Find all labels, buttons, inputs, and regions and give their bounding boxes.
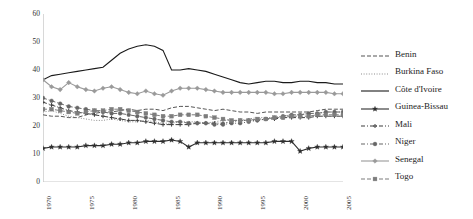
x-tick-label: 2000 xyxy=(303,196,310,210)
legend-swatch-icon xyxy=(360,136,390,148)
legend-item-burkina-faso[interactable]: Burkina Faso xyxy=(360,64,473,80)
legend-item-niger[interactable]: Niger xyxy=(360,134,473,150)
series-senegal xyxy=(43,78,343,98)
x-tick-label: 1995 xyxy=(260,196,267,210)
y-tick-label: 50 xyxy=(18,38,40,46)
legend-item-togo[interactable]: Togo xyxy=(360,169,473,185)
legend-item-label: Senegal xyxy=(395,155,424,164)
legend-item-benin[interactable]: Benin xyxy=(360,46,473,62)
series-burkina-faso xyxy=(43,111,343,124)
x-tick-label: 2005 xyxy=(346,196,353,210)
x-axis-labels: 19701975198019851990199520002005 xyxy=(43,184,343,219)
legend-swatch-icon xyxy=(360,48,390,60)
chart-figure: 0102030405060 19701975198019851990199520… xyxy=(0,0,473,219)
y-tick-label: 10 xyxy=(18,150,40,158)
y-tick-label: 40 xyxy=(18,66,40,74)
legend-item-mali[interactable]: Mali xyxy=(360,116,473,132)
legend-item-label: Mali xyxy=(395,120,412,129)
chart-legend: BeninBurkina FasoCôte d'IvoireGuinea-Bis… xyxy=(360,46,473,186)
legend-swatch-icon xyxy=(360,153,390,165)
legend-item-label: Togo xyxy=(395,172,413,181)
x-tick-label: 1985 xyxy=(175,196,182,210)
y-axis-labels: 0102030405060 xyxy=(14,0,40,219)
legend-swatch-icon xyxy=(360,118,390,130)
legend-item-label: Guinea-Bissau xyxy=(395,102,448,111)
legend-item-c-te-d-ivoire[interactable]: Côte d'Ivoire xyxy=(360,81,473,97)
x-tick-label: 1990 xyxy=(217,196,224,210)
x-tick-label: 1980 xyxy=(132,196,139,210)
x-tick-label: 1970 xyxy=(46,196,53,210)
legend-swatch-icon xyxy=(360,83,390,95)
legend-item-guinea-bissau[interactable]: Guinea-Bissau xyxy=(360,99,473,115)
axis-lines xyxy=(43,14,343,182)
series-mali xyxy=(43,100,343,126)
legend-item-label: Benin xyxy=(395,50,417,59)
series-guinea-bissau xyxy=(43,137,343,153)
legend-item-label: Burkina Faso xyxy=(395,67,443,76)
y-tick-label: 60 xyxy=(18,10,40,18)
x-tick-label: 1975 xyxy=(89,196,96,210)
plot-area xyxy=(43,14,343,182)
legend-swatch-icon xyxy=(360,171,390,183)
legend-swatch-icon xyxy=(360,66,390,78)
legend-swatch-icon xyxy=(360,101,390,113)
y-tick-label: 0 xyxy=(18,178,40,186)
legend-item-label: Niger xyxy=(395,137,416,146)
y-tick-label: 30 xyxy=(18,94,40,102)
legend-item-label: Côte d'Ivoire xyxy=(395,85,442,94)
y-tick-label: 20 xyxy=(18,122,40,130)
legend-item-senegal[interactable]: Senegal xyxy=(360,151,473,167)
series-c-te-d-ivoire xyxy=(43,45,343,84)
chart-canvas xyxy=(43,14,343,182)
